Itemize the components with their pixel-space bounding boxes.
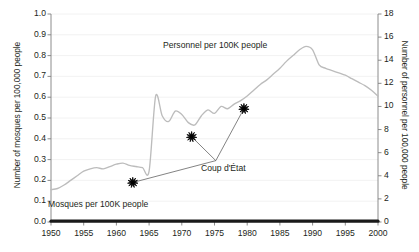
personnel-series-label: Personnel per 100K people bbox=[163, 40, 267, 50]
x-tick-label: 2000 bbox=[358, 228, 398, 238]
mosques-series-label: Mosques per 100K people bbox=[48, 199, 148, 209]
data-series bbox=[51, 46, 378, 221]
chart-figure: Number of mosques per 100,000 people Num… bbox=[0, 0, 419, 252]
coup-detat-label: Coup d'État bbox=[201, 163, 246, 173]
